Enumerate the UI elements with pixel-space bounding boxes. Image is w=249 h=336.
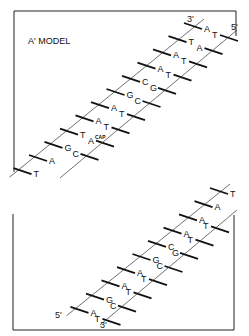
base-bar [107,89,125,95]
base-right: T [181,56,187,66]
base-left: G [127,90,134,100]
base-right: G [150,83,157,93]
base-bar [169,36,187,42]
base-bar [179,214,197,220]
base-right: A [197,43,203,53]
base-right: T [104,122,110,132]
base-left: A [158,64,164,74]
base-left: T [189,37,195,47]
base-bar [91,102,109,108]
base-bar [71,307,89,313]
base-bar [148,241,166,247]
base-left: A [215,202,221,212]
base-left: T [230,189,236,199]
base-bar [14,168,32,174]
base-bar [164,228,182,234]
base-bar [118,306,136,312]
dna-diagram: A' MODEL ATTAATATCGGCATATTACAPGCAT3'5' T… [0,0,249,336]
base-bar [134,292,152,298]
lower-ladder: TAATATCGGCATATGCAT5'3' [55,184,237,330]
base-right: C [110,301,117,311]
base-bar [138,63,156,69]
base-right: C [135,96,142,106]
base-bar [153,49,171,55]
end-label-3prime: 3' [187,14,194,24]
model-title: A' MODEL [28,36,70,46]
base-bar [195,201,213,207]
base-right: T [119,109,125,119]
base-right: C [73,149,80,159]
cap-superscript: CAP [95,134,106,140]
base-right: T [203,221,209,231]
base-left: A [173,50,179,60]
base-left: A [204,24,210,34]
base-bar [29,155,47,161]
frame-bottom [13,214,234,330]
base-right: T [188,235,194,245]
base-bar [122,76,140,82]
base-right: T [166,70,172,80]
end-label-5prime-bottom: 5' [55,310,62,320]
base-right: T [212,30,218,40]
base-bar [149,279,167,285]
base-bar [86,294,104,300]
base-right: T [126,287,132,297]
end-label-3prime-bottom: 3' [100,320,107,330]
base-right: C [157,261,164,271]
base-left: T [80,130,86,140]
base-right: T [141,274,147,284]
base-left: C [142,77,149,87]
end-label-5prime: 5' [231,22,238,32]
base-left: A [49,156,55,166]
base-left: G [65,143,72,153]
base-left: A [111,103,117,113]
base-left: A [96,116,102,126]
base-right: G [172,248,179,258]
base-right: A [88,136,94,146]
upper-right-strand [60,30,237,178]
base-bar [205,48,223,54]
base-left: T [34,169,40,179]
base-bar [220,35,238,41]
